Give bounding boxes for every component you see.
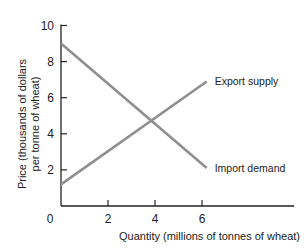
chart: Price (thousands of dollars per tonne of… (0, 0, 308, 249)
x-tick-label: 6 (199, 212, 206, 226)
y-tick-label: 8 (47, 55, 54, 69)
series-import-demand-line (61, 44, 207, 169)
x-axis-label: Quantity (millions of tonnes of wheat) (119, 230, 300, 242)
y-tick-label: 6 (47, 91, 54, 105)
y-tick-label: 10 (41, 19, 55, 33)
x-tick-label: 4 (152, 212, 159, 226)
y-axis-title: Price (thousands of dollars per tonne of… (16, 58, 41, 189)
y-axis-label-line2: per tonne of wheat) (29, 77, 41, 172)
y-axis-label-line1: Price (thousands of dollars (16, 58, 28, 189)
y-tick-label: 2 (47, 163, 54, 177)
x-tick-label: 2 (105, 212, 112, 226)
axes (61, 25, 294, 207)
y-tick-label: 4 (47, 127, 54, 141)
tick-labels: 2468102460 (41, 19, 206, 226)
origin-label: 0 (47, 212, 54, 226)
series-export-supply-line (61, 81, 207, 184)
series-label: Import demand (215, 162, 286, 174)
series-label: Export supply (215, 75, 279, 87)
series-lines: Import demandExport supply (61, 44, 285, 185)
